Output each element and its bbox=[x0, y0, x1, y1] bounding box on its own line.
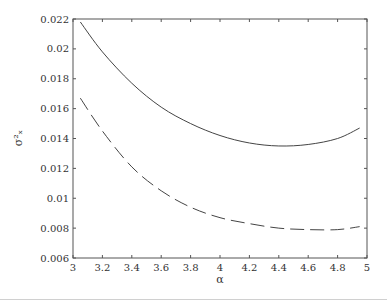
x-tick-label: 4.4 bbox=[271, 262, 287, 273]
bottom-divider bbox=[0, 299, 387, 300]
y-axis-label: σ²ₓ bbox=[12, 129, 25, 146]
x-tick-label: 4 bbox=[217, 262, 223, 273]
x-tick-label: 3.6 bbox=[153, 262, 169, 273]
y-tick-label: 0.008 bbox=[40, 223, 69, 234]
y-tick-labels: 0.0060.0080.010.0120.0140.0160.0180.020.… bbox=[40, 14, 69, 264]
x-tick-label: 3.4 bbox=[124, 262, 140, 273]
solid-series-line bbox=[80, 22, 359, 146]
y-tick-label: 0.012 bbox=[40, 163, 69, 174]
x-tick-label: 3 bbox=[70, 262, 76, 273]
plot-lines bbox=[80, 22, 359, 230]
y-tick-label: 0.01 bbox=[47, 193, 69, 204]
x-tick-label: 4.6 bbox=[300, 262, 316, 273]
x-tick-label: 3.8 bbox=[183, 262, 199, 273]
y-tick-label: 0.022 bbox=[40, 14, 69, 25]
axis-ticks bbox=[73, 19, 367, 258]
x-axis-label: α bbox=[216, 273, 224, 286]
y-tick-label: 0.006 bbox=[40, 253, 69, 264]
y-tick-label: 0.018 bbox=[40, 73, 69, 84]
x-tick-label: 4.8 bbox=[330, 262, 346, 273]
x-tick-labels: 33.23.43.63.844.24.44.64.85 bbox=[70, 262, 370, 273]
y-tick-label: 0.02 bbox=[47, 43, 69, 54]
chart: 33.23.43.63.844.24.44.64.85 0.0060.0080.… bbox=[0, 0, 387, 302]
plot-frame bbox=[73, 19, 367, 258]
x-tick-label: 5 bbox=[364, 262, 370, 273]
y-tick-label: 0.014 bbox=[40, 133, 69, 144]
x-tick-label: 3.2 bbox=[94, 262, 110, 273]
y-tick-label: 0.016 bbox=[40, 103, 69, 114]
dashed-series-line bbox=[80, 98, 359, 230]
x-tick-label: 4.2 bbox=[241, 262, 257, 273]
